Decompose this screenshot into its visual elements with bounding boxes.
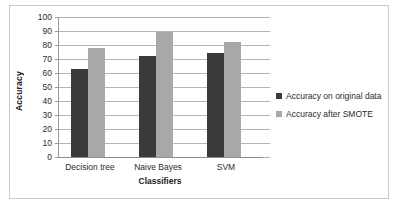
legend-item-original: Accuracy on original data xyxy=(276,92,394,101)
y-tick-label: 40 xyxy=(12,97,52,106)
x-tick-label-naive-bayes: Naive Bayes xyxy=(126,162,190,172)
bar-naive-bayes-smote xyxy=(156,32,173,157)
y-tick-mark xyxy=(55,129,59,130)
y-tick-label: 60 xyxy=(12,69,52,78)
x-axis-title: Classifiers xyxy=(58,176,262,186)
right-tick-mark xyxy=(263,59,270,60)
y-tick-mark xyxy=(55,59,59,60)
chart-legend: Accuracy on original data Accuracy after… xyxy=(276,92,394,127)
plot-area xyxy=(58,17,262,157)
right-tick-mark xyxy=(263,143,270,144)
y-tick-mark xyxy=(55,45,59,46)
y-tick-label: 100 xyxy=(12,13,52,22)
bar-decision-tree-smote xyxy=(88,48,105,157)
y-tick-label: 10 xyxy=(12,139,52,148)
x-axis-line xyxy=(59,157,263,158)
x-tick-label-svm: SVM xyxy=(194,162,258,172)
right-tick-mark xyxy=(263,17,270,18)
y-tick-mark xyxy=(55,17,59,18)
y-tick-mark xyxy=(55,143,59,144)
y-tick-label: 0 xyxy=(12,153,52,162)
right-tick-mark xyxy=(263,31,270,32)
legend-swatch-icon xyxy=(276,93,282,99)
y-tick-label: 90 xyxy=(12,27,52,36)
right-tick-mark xyxy=(263,129,270,130)
right-tick-mark xyxy=(263,157,270,158)
bar-naive-bayes-original xyxy=(139,56,156,157)
y-tick-mark xyxy=(55,31,59,32)
legend-swatch-icon xyxy=(276,111,282,117)
right-tick-mark xyxy=(263,87,270,88)
legend-item-smote: Accuracy after SMOTE xyxy=(276,110,394,119)
y-tick-mark xyxy=(55,87,59,88)
y-tick-label: 50 xyxy=(12,83,52,92)
y-tick-label: 70 xyxy=(12,55,52,64)
right-tick-mark xyxy=(263,73,270,74)
chart-figure: Accuracy 100 90 80 70 60 50 40 30 20 10 … xyxy=(0,0,401,216)
y-tick-mark xyxy=(55,73,59,74)
right-tick-mark xyxy=(263,115,270,116)
bar-decision-tree-original xyxy=(71,69,88,157)
y-tick-mark xyxy=(55,115,59,116)
y-tick-label: 20 xyxy=(12,125,52,134)
y-tick-label: 80 xyxy=(12,41,52,50)
x-tick-label-decision-tree: Decision tree xyxy=(58,162,122,172)
bar-svm-original xyxy=(207,53,224,157)
y-tick-mark xyxy=(55,157,59,158)
gridline xyxy=(59,17,263,18)
legend-label: Accuracy on original data xyxy=(286,92,381,101)
right-tick-mark xyxy=(263,45,270,46)
right-tick-mark xyxy=(263,101,270,102)
legend-label: Accuracy after SMOTE xyxy=(286,110,373,119)
y-tick-mark xyxy=(55,101,59,102)
bar-svm-smote xyxy=(224,42,241,157)
y-tick-label: 30 xyxy=(12,111,52,120)
